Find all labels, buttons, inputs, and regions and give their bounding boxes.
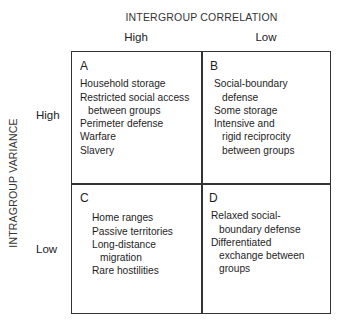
quadrant-letter: D xyxy=(209,192,305,205)
quadrant-item-line: Long-distance xyxy=(92,238,173,251)
quadrant-letter: C xyxy=(80,192,173,205)
quadrant-item-line: Slavery xyxy=(80,144,189,157)
row-label-low: Low xyxy=(36,243,57,255)
y-axis-title: INTRAGROUP VARIANCE xyxy=(7,118,19,247)
quadrant-b: B Social-boundarydefenseSome storageInte… xyxy=(210,60,295,157)
quadrant-d: D Relaxed social-boundary defenseDiffere… xyxy=(209,192,305,276)
column-label-low: Low xyxy=(201,31,331,43)
quadrant-item-line: Social-boundary xyxy=(214,77,295,90)
quadrant-item-line: defense xyxy=(214,91,295,104)
quadrant-item-line: Rare hostilities xyxy=(92,264,173,277)
quadrant-item-line: Passive territories xyxy=(92,225,173,238)
quadrant-items: Home rangesPassive territoriesLong-dista… xyxy=(80,211,173,277)
quadrant-items: Social-boundarydefenseSome storageIntens… xyxy=(210,77,295,157)
quadrant-item-line: between groups xyxy=(214,144,295,157)
quadrant-letter: A xyxy=(80,60,189,73)
horizontal-divider xyxy=(72,183,330,185)
quadrant-item-line: Restricted social access xyxy=(80,91,189,104)
quadrant-item-line: boundary defense xyxy=(211,223,305,236)
row-label-high: High xyxy=(36,109,60,121)
quadrant-item-line: groups xyxy=(211,262,305,275)
quadrant-item-line: Household storage xyxy=(80,77,189,90)
quadrant-item-line: exchange between xyxy=(211,249,305,262)
quadrant-grid: A Household storageRestricted social acc… xyxy=(71,51,331,314)
quadrant-item-line: Perimeter defense xyxy=(80,117,189,130)
quadrant-item-line: Differentiated xyxy=(211,236,305,249)
quadrant-items: Household storageRestricted social acces… xyxy=(80,77,189,157)
quadrant-item-line: Intensive and xyxy=(214,117,295,130)
quadrant-items: Relaxed social-boundary defenseDifferent… xyxy=(209,209,305,275)
quadrant-item-line: rigid reciprocity xyxy=(214,130,295,143)
quadrant-a: A Household storageRestricted social acc… xyxy=(80,60,189,157)
column-label-high: High xyxy=(71,31,201,43)
x-axis-title: INTERGROUP CORRELATION xyxy=(0,11,347,23)
quadrant-c: C Home rangesPassive territoriesLong-dis… xyxy=(80,192,173,278)
quadrant-item-line: Warfare xyxy=(80,130,189,143)
quadrant-item-line: migration xyxy=(92,251,173,264)
quadrant-letter: B xyxy=(210,60,295,73)
quadrant-item-line: Home ranges xyxy=(92,211,173,224)
quadrant-item-line: Some storage xyxy=(214,104,295,117)
quadrant-item-line: between groups xyxy=(80,104,189,117)
quadrant-item-line: Relaxed social- xyxy=(211,209,305,222)
